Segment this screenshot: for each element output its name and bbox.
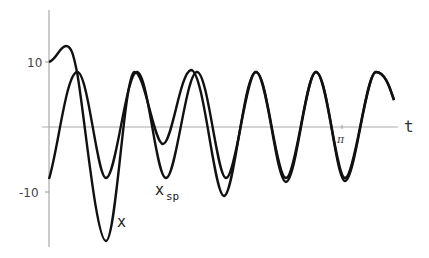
y-tick-label-10: 10 [27,56,42,70]
chart-canvas: 10 -10 π t x x sp [0,0,429,258]
x-tick-label-pi: π [336,133,345,146]
label-x: x [117,213,126,231]
label-xsp-sub: sp [166,190,179,203]
t-axis-label: t [404,117,414,136]
y-tick-label-neg10: -10 [19,186,39,200]
label-xsp-main: x [155,181,164,199]
